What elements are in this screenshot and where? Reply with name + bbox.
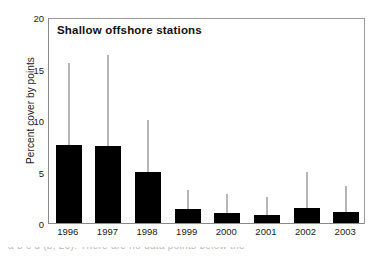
bar <box>56 145 82 223</box>
y-tick-label: 15 <box>22 64 44 75</box>
error-bar <box>148 120 149 172</box>
bar <box>214 213 240 223</box>
x-tick-label: 1997 <box>97 226 118 237</box>
bar-group <box>208 19 248 223</box>
bar <box>175 209 201 223</box>
bar-group <box>128 19 168 223</box>
bar-group <box>287 19 327 223</box>
error-bar <box>108 55 109 146</box>
bar <box>333 212 359 223</box>
x-tick-label: 1996 <box>57 226 78 237</box>
chart-figure: Percent cover by points 05101520 Shallow… <box>0 0 392 257</box>
x-tick-label: 2002 <box>295 226 316 237</box>
y-tick-label: 5 <box>22 167 44 178</box>
error-bar <box>227 194 228 213</box>
y-tick-label: 0 <box>22 219 44 230</box>
bar-group <box>326 19 366 223</box>
x-tick-label: 1998 <box>136 226 157 237</box>
plot-area: Shallow offshore stations <box>48 18 365 224</box>
x-tick-label: 2001 <box>255 226 276 237</box>
caption-fragment: a b c d (b, 20). There are no data point… <box>8 247 245 251</box>
bar <box>95 146 121 223</box>
y-tick-label: 20 <box>22 13 44 24</box>
y-tick-label: 10 <box>22 116 44 127</box>
bar <box>294 208 320 223</box>
error-bar <box>346 186 347 212</box>
y-axis-ticks: 05101520 <box>20 0 44 257</box>
error-bar <box>187 190 188 209</box>
bar-group <box>89 19 129 223</box>
bar-group <box>168 19 208 223</box>
x-tick-label: 2000 <box>216 226 237 237</box>
bars-container <box>49 19 364 223</box>
x-tick-label: 1999 <box>176 226 197 237</box>
x-tick-label: 2003 <box>335 226 356 237</box>
bar <box>135 172 161 224</box>
error-bar <box>68 63 69 144</box>
bar-group <box>49 19 89 223</box>
bar-group <box>247 19 287 223</box>
x-axis-ticks: 19961997199819992000200120022003 <box>48 226 365 242</box>
bar <box>254 215 280 223</box>
error-bar <box>266 197 267 215</box>
error-bar <box>306 172 307 208</box>
caption-strip: a b c d (b, 20). There are no data point… <box>0 247 392 257</box>
